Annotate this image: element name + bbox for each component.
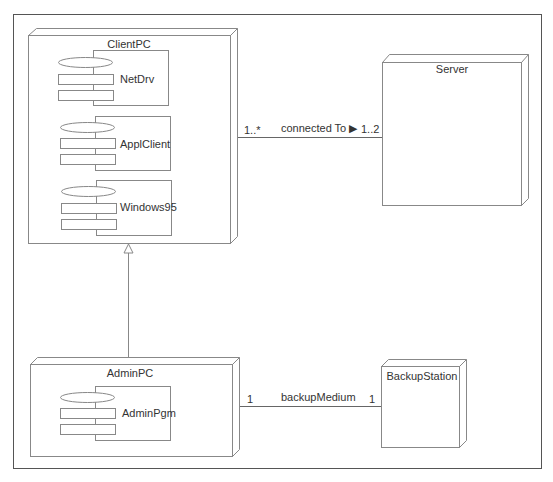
deployment-diagram-canvas: [0, 0, 553, 482]
multiplicity-backupstation-end: 1: [369, 393, 375, 405]
component-label-applclient: ApplClient: [120, 138, 170, 150]
node-label-backupstation: BackupStation: [387, 370, 458, 382]
multiplicity-server-end: 1..2: [361, 123, 379, 135]
node-label-server: Server: [436, 63, 468, 75]
node-label-adminpc: AdminPC: [107, 367, 153, 379]
component-label-adminpgm: AdminPgm: [122, 407, 176, 419]
multiplicity-adminpc-end: 1: [247, 393, 253, 405]
component-label-netdrv: NetDrv: [120, 73, 154, 85]
generalization-adminpc-clientpc[interactable]: [124, 244, 133, 358]
node-server[interactable]: [383, 55, 529, 206]
multiplicity-clientpc-end: 1..*: [244, 124, 261, 136]
association-label-connected-to: connected To ▶: [281, 122, 357, 134]
node-label-clientpc: ClientPC: [107, 38, 150, 50]
association-label-backup-medium: backupMedium: [281, 391, 356, 403]
component-label-windows95: Windows95: [120, 201, 177, 213]
